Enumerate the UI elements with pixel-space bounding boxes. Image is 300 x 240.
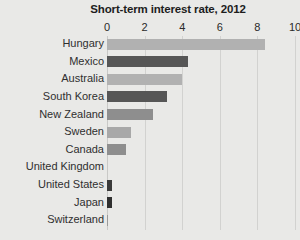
chart-container: Short-term interest rate, 2012 0246810 H… <box>0 0 300 240</box>
bar <box>107 74 182 85</box>
bar-rows: HungaryMexicoAustraliaSouth KoreaNew Zea… <box>0 36 300 230</box>
category-label: Japan <box>0 196 104 209</box>
category-label: Switzerland <box>0 213 104 226</box>
category-label: Sweden <box>0 125 104 138</box>
category-label: Australia <box>0 72 104 85</box>
category-label: United Kingdom <box>0 160 104 173</box>
bar-row: Switzerland <box>0 212 300 230</box>
bar-row: New Zealand <box>0 107 300 125</box>
bar-row: Japan <box>0 195 300 213</box>
bar-row: Canada <box>0 142 300 160</box>
category-label: United States <box>0 178 104 191</box>
bar <box>107 91 167 102</box>
bar <box>107 197 112 208</box>
bar-row: United Kingdom <box>0 159 300 177</box>
x-tick-label: 2 <box>142 21 148 33</box>
bar <box>107 180 112 191</box>
x-tick-label: 10 <box>289 21 300 33</box>
bar-row: Hungary <box>0 36 300 54</box>
bar-row: Mexico <box>0 54 300 72</box>
bar <box>107 109 153 120</box>
category-label: Hungary <box>0 37 104 50</box>
category-label: Mexico <box>0 55 104 68</box>
bar <box>107 39 265 50</box>
category-label: South Korea <box>0 90 104 103</box>
x-tick-label: 0 <box>104 21 110 33</box>
bar <box>107 215 108 226</box>
bar-row: Australia <box>0 71 300 89</box>
bar <box>107 56 188 67</box>
x-tick-label: 6 <box>217 21 223 33</box>
chart-title: Short-term interest rate, 2012 <box>0 3 300 15</box>
bar <box>107 144 126 155</box>
bar-row: Sweden <box>0 124 300 142</box>
bar-row: United States <box>0 177 300 195</box>
category-label: Canada <box>0 143 104 156</box>
category-label: New Zealand <box>0 108 104 121</box>
x-axis-tick-labels: 0246810 <box>107 21 295 35</box>
bar <box>107 127 131 138</box>
bar-row: South Korea <box>0 89 300 107</box>
x-tick-label: 4 <box>179 21 185 33</box>
x-tick-label: 8 <box>254 21 260 33</box>
